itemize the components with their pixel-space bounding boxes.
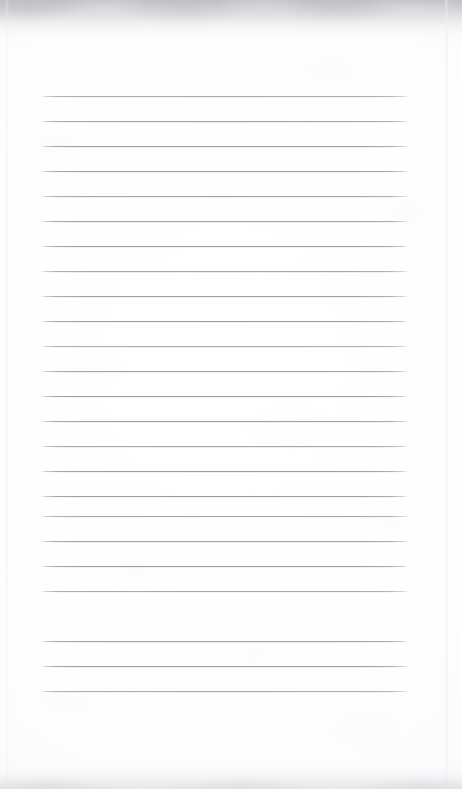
ruled-line-halo — [41, 122, 408, 123]
ruled-line — [41, 471, 408, 472]
ruled-line-halo — [41, 297, 408, 298]
ruled-line — [41, 641, 408, 642]
ruled-line — [41, 121, 408, 122]
ruled-line-halo — [41, 247, 408, 248]
ruled-line — [41, 446, 408, 447]
ruled-line-halo — [41, 172, 408, 173]
ruled-line — [41, 321, 408, 322]
ruled-line — [41, 421, 408, 422]
ruled-line — [41, 516, 408, 517]
ruled-line-halo — [41, 447, 408, 448]
scanner-shadow-bottom-mottle — [0, 759, 462, 789]
ruled-line-halo — [41, 422, 408, 423]
ruled-line — [41, 496, 408, 497]
ruled-line-halo — [41, 667, 408, 668]
ruled-line-halo — [41, 472, 408, 473]
scanned-page — [0, 0, 462, 789]
ruled-line — [41, 296, 408, 297]
ruled-line-halo — [41, 397, 408, 398]
ruled-line — [41, 271, 408, 272]
ruled-line — [41, 666, 408, 667]
ruled-line — [41, 171, 408, 172]
ruled-line — [41, 371, 408, 372]
ruled-line-halo — [41, 222, 408, 223]
ruled-line-halo — [41, 497, 408, 498]
ruled-line-halo — [41, 272, 408, 273]
ruled-line-halo — [41, 642, 408, 643]
ruled-line-halo — [41, 542, 408, 543]
ruled-line — [41, 96, 408, 97]
ruled-line-halo — [41, 517, 408, 518]
ruled-line-halo — [41, 322, 408, 323]
ruled-line-halo — [41, 372, 408, 373]
ruled-line — [41, 346, 408, 347]
ruled-line — [41, 196, 408, 197]
ruled-line — [41, 246, 408, 247]
ruled-line — [41, 541, 408, 542]
ruled-line-halo — [41, 347, 408, 348]
ruled-line — [41, 566, 408, 567]
ruled-line-halo — [41, 692, 408, 693]
ruled-line-halo — [41, 147, 408, 148]
ruled-line — [41, 146, 408, 147]
ruled-lines-group — [0, 0, 462, 789]
ruled-line-halo — [41, 567, 408, 568]
ruled-line — [41, 221, 408, 222]
ruled-line — [41, 591, 408, 592]
ruled-line-halo — [41, 592, 408, 593]
ruled-line — [41, 396, 408, 397]
ruled-line-halo — [41, 97, 408, 98]
ruled-line-halo — [41, 197, 408, 198]
ruled-line — [41, 691, 408, 692]
